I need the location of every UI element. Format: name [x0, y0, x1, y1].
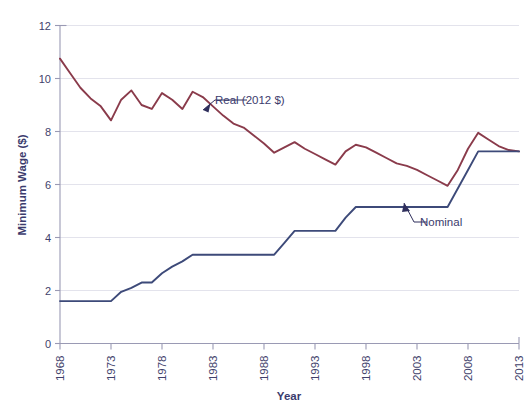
x-tick-label: 1978 [156, 356, 168, 382]
y-tick-label: 0 [45, 338, 51, 350]
real-annotation-label: Real (2012 $) [215, 94, 285, 106]
x-tick-label: 1968 [54, 356, 66, 382]
x-tick-label: 1973 [105, 356, 117, 382]
x-tick-label: 1988 [258, 356, 270, 382]
chart-svg: 024681012 196819731978198319881993199820… [0, 0, 532, 413]
x-axis-title: Year [277, 390, 302, 402]
y-axis-title: Minimum Wage ($) [16, 134, 28, 235]
y-tick-label: 12 [39, 20, 51, 32]
nominal-annotation-label: Nominal [420, 216, 462, 228]
y-tick-label: 10 [39, 73, 51, 85]
x-tick-label: 2003 [411, 356, 423, 382]
x-tick-label: 1983 [207, 356, 219, 382]
x-tick-label: 1993 [309, 356, 321, 382]
y-tick-label: 6 [45, 179, 51, 191]
y-tick-label: 8 [45, 126, 51, 138]
chart-background [0, 0, 532, 413]
x-tick-label: 2008 [462, 356, 474, 382]
x-tick-label: 1998 [360, 356, 372, 382]
x-tick-label: 2013 [513, 356, 525, 382]
y-tick-label: 4 [45, 232, 51, 244]
minimum-wage-chart: 024681012 196819731978198319881993199820… [0, 0, 532, 413]
y-tick-label: 2 [45, 285, 51, 297]
